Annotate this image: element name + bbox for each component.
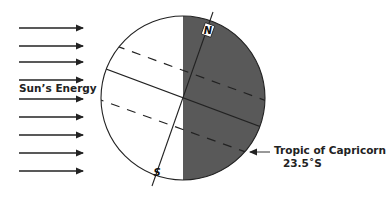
tropic-latitude-value: 23.5˚S <box>283 157 322 169</box>
night-side <box>183 14 285 182</box>
sun-energy-label: Sun’s Energy <box>19 82 97 94</box>
south-label: S <box>153 167 160 178</box>
sun-rays <box>19 28 83 171</box>
tropic-of-capricorn-label: Tropic of Capricorn <box>274 142 386 158</box>
earth-globe: N S <box>95 12 285 186</box>
north-label: N <box>204 25 213 36</box>
